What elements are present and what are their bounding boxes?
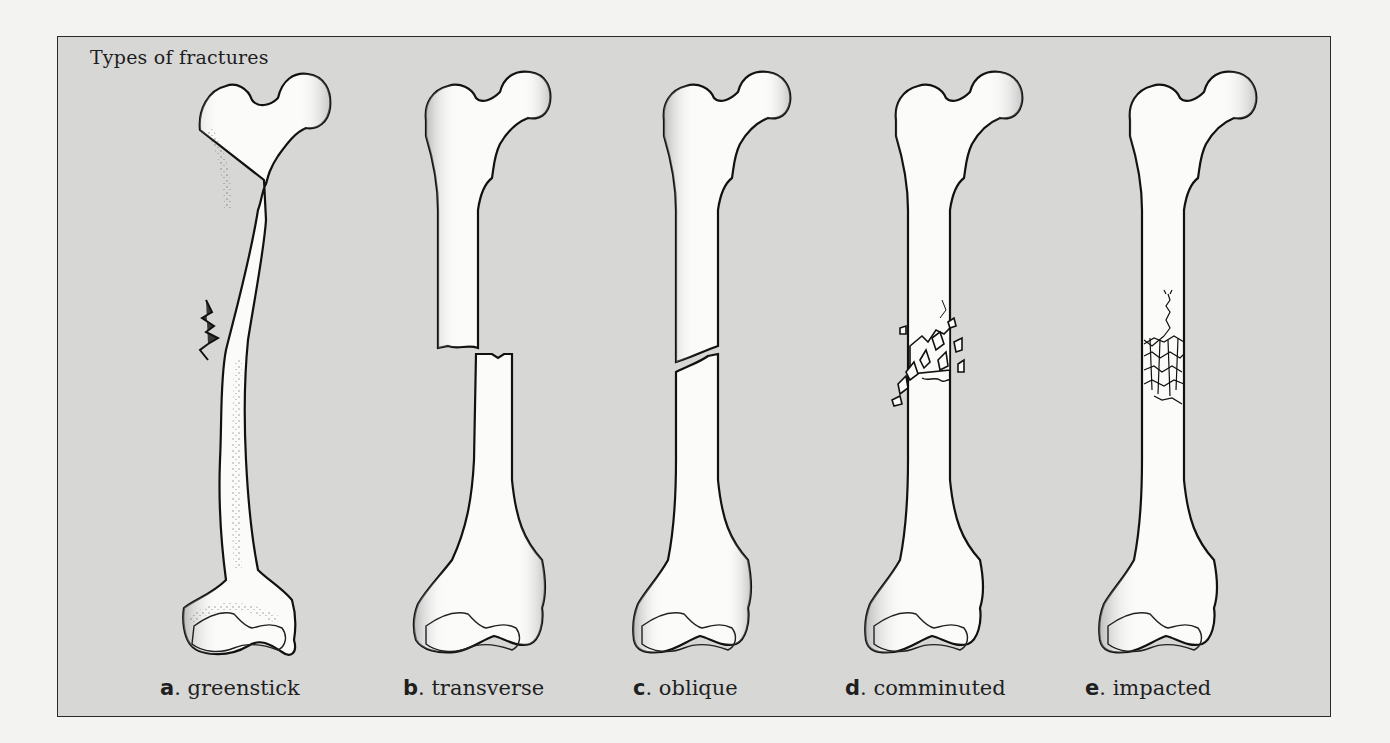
caption-letter: a	[160, 676, 174, 700]
bone-oblique-illustration	[632, 60, 797, 665]
caption-label: oblique	[659, 676, 738, 700]
caption-comminuted: d. comminuted	[845, 676, 1006, 700]
caption-oblique: c. oblique	[633, 676, 738, 700]
caption-letter: d	[845, 676, 860, 700]
femur-icon	[1099, 72, 1256, 653]
femur-icon	[183, 74, 330, 655]
caption-label: greenstick	[188, 676, 300, 700]
bone-impacted-illustration	[1094, 60, 1264, 665]
caption-letter: c	[633, 676, 645, 700]
caption-impacted: e. impacted	[1085, 676, 1211, 700]
caption-letter: b	[403, 676, 418, 700]
caption-label: impacted	[1113, 676, 1212, 700]
caption-transverse: b. transverse	[403, 676, 544, 700]
caption-greenstick: a. greenstick	[160, 676, 300, 700]
femur-icon	[633, 72, 790, 653]
bone-transverse-illustration	[408, 60, 558, 665]
caption-label: transverse	[431, 676, 544, 700]
caption-label: comminuted	[873, 676, 1005, 700]
bone-greenstick-illustration	[178, 60, 338, 665]
femur-icon	[414, 72, 551, 653]
bone-comminuted-illustration	[862, 60, 1027, 665]
femur-icon	[865, 72, 1022, 653]
caption-letter: e	[1085, 676, 1099, 700]
